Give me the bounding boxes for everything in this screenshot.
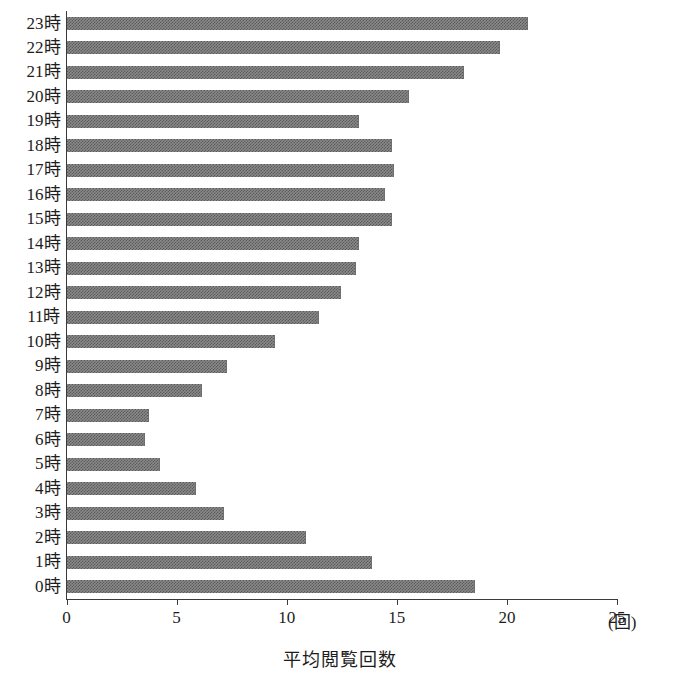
y-axis-tick-label: 16時 <box>27 183 61 208</box>
bar <box>67 139 392 152</box>
bar-row: 11時 <box>0 305 679 330</box>
bar-row: 6時 <box>0 428 679 453</box>
x-axis-title: 平均閲覧回数 <box>0 645 679 671</box>
bar <box>67 286 341 299</box>
x-axis-tick-label: 20 <box>498 608 515 628</box>
y-axis-tick-label: 15時 <box>27 207 61 232</box>
bar <box>67 507 224 520</box>
y-axis-tick-label: 5時 <box>35 452 61 477</box>
bar <box>67 531 306 544</box>
y-axis-tick-label: 8時 <box>35 379 61 404</box>
bar-rows: 23時22時21時20時19時18時17時16時15時14時13時12時11時1… <box>0 0 679 681</box>
x-axis-tick <box>287 599 288 605</box>
bar <box>67 482 196 495</box>
bar-row: 16時 <box>0 183 679 208</box>
y-axis-tick-label: 7時 <box>35 403 61 428</box>
bar <box>67 580 475 593</box>
y-axis-tick-label: 6時 <box>35 428 61 453</box>
bar-row: 1時 <box>0 550 679 575</box>
x-axis-tick-label: 0 <box>62 608 71 628</box>
y-axis-tick-label: 4時 <box>35 477 61 502</box>
bar <box>67 458 160 471</box>
x-axis-tick-label: 15 <box>388 608 405 628</box>
y-axis-tick-label: 22時 <box>27 36 61 61</box>
bar-row: 23時 <box>0 12 679 37</box>
x-axis-tick-label: 10 <box>278 608 295 628</box>
y-axis-tick-label: 17時 <box>27 158 61 183</box>
bar-row: 20時 <box>0 85 679 110</box>
bar-row: 21時 <box>0 60 679 85</box>
y-axis-tick-label: 12時 <box>27 281 61 306</box>
bar-row: 2時 <box>0 526 679 551</box>
y-axis-tick-label: 0時 <box>35 575 61 600</box>
y-axis-tick-label: 18時 <box>27 134 61 159</box>
bar-row: 3時 <box>0 501 679 526</box>
y-axis-tick-label: 11時 <box>27 305 60 330</box>
bar <box>67 188 385 201</box>
y-axis-tick-label: 1時 <box>35 550 61 575</box>
bar-row: 5時 <box>0 452 679 477</box>
bar <box>67 17 528 30</box>
y-axis-tick-label: 9時 <box>35 354 61 379</box>
bar <box>67 311 319 324</box>
bar <box>67 556 372 569</box>
y-axis-tick-label: 20時 <box>27 85 61 110</box>
bar-row: 7時 <box>0 403 679 428</box>
bar-row: 8時 <box>0 379 679 404</box>
bar <box>67 262 356 275</box>
bar-row: 14時 <box>0 232 679 257</box>
bar-row: 17時 <box>0 158 679 183</box>
y-axis-tick-label: 2時 <box>35 526 61 551</box>
y-axis-tick-label: 19時 <box>27 109 61 134</box>
x-axis-tick <box>67 599 68 605</box>
bar <box>67 409 149 422</box>
bar-row: 18時 <box>0 134 679 159</box>
bar <box>67 360 227 373</box>
y-axis-tick-label: 14時 <box>27 232 61 257</box>
x-axis-unit-label: (回) <box>608 608 636 633</box>
bar <box>67 384 202 397</box>
bar <box>67 66 464 79</box>
bar-row: 9時 <box>0 354 679 379</box>
bar-row: 12時 <box>0 281 679 306</box>
y-axis-tick-label: 10時 <box>27 330 61 355</box>
bar-row: 22時 <box>0 36 679 61</box>
bar-row: 19時 <box>0 109 679 134</box>
bar-row: 13時 <box>0 256 679 281</box>
x-axis-tick <box>507 599 508 605</box>
x-axis-tick <box>397 599 398 605</box>
y-axis-tick-label: 3時 <box>35 501 61 526</box>
y-axis-tick-label: 13時 <box>27 256 61 281</box>
bar <box>67 164 394 177</box>
bar <box>67 213 392 226</box>
bar-row: 10時 <box>0 330 679 355</box>
bar <box>67 90 409 103</box>
bar-row: 4時 <box>0 477 679 502</box>
bar-row: 15時 <box>0 207 679 232</box>
y-axis-tick-label: 23時 <box>27 12 61 37</box>
x-axis-tick <box>617 599 618 605</box>
y-axis-tick-label: 21時 <box>27 60 61 85</box>
x-axis-tick <box>177 599 178 605</box>
bar <box>67 335 275 348</box>
bar <box>67 237 359 250</box>
bar-chart: 23時22時21時20時19時18時17時16時15時14時13時12時11時1… <box>0 0 679 681</box>
x-axis-tick-label: 5 <box>172 608 181 628</box>
bar <box>67 115 359 128</box>
bar-row: 0時 <box>0 575 679 600</box>
bar <box>67 433 145 446</box>
bar <box>67 41 500 54</box>
